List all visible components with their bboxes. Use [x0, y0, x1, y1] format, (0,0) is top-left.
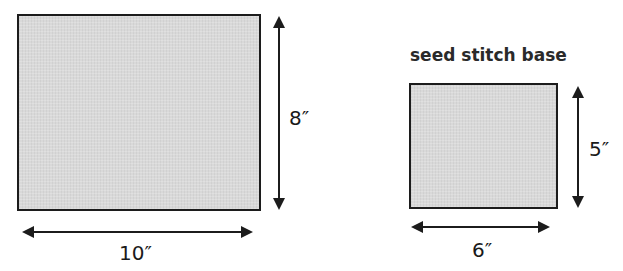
large-height-arrow-icon	[273, 16, 285, 210]
dimension-arrows	[0, 0, 623, 271]
small-width-label: 6″	[472, 240, 492, 260]
small-width-arrow-icon	[411, 221, 550, 233]
large-width-label: 10″	[119, 243, 152, 263]
large-width-arrow-icon	[22, 226, 253, 238]
large-height-label: 8″	[289, 108, 309, 128]
small-panel-title: seed stitch base	[410, 47, 567, 64]
small-height-label: 5″	[589, 139, 609, 159]
small-height-arrow-icon	[572, 86, 584, 208]
